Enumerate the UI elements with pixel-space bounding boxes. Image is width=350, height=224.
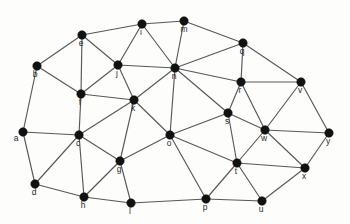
vertex-label-x: x — [302, 171, 307, 181]
graph-edge-v-y — [301, 82, 329, 133]
graph-edge-h-l — [84, 197, 131, 203]
vertex-label-y: y — [326, 136, 331, 146]
graph-edge-t-u — [237, 163, 262, 201]
graph-edge-s-t — [228, 113, 237, 163]
graph-edge-p-t — [206, 163, 237, 199]
vertex-label-n: n — [172, 71, 177, 81]
graph-edge-j-n — [118, 65, 175, 68]
graph-vertex-j — [114, 61, 122, 69]
graph-edge-o-p — [170, 135, 206, 199]
graph-edge-q-v — [243, 43, 301, 82]
vertex-label-f: f — [79, 97, 82, 107]
graph-edge-i-m — [142, 21, 184, 24]
graph-edge-n-s — [175, 68, 228, 113]
edge-layer — [23, 21, 329, 203]
vertex-label-u: u — [259, 204, 264, 214]
graph-edge-c-d — [35, 135, 79, 184]
vertex-label-i: i — [140, 27, 142, 37]
vertex-label-t: t — [235, 166, 238, 176]
graph-edge-p-u — [206, 199, 262, 201]
graph-edge-r-w — [241, 82, 265, 130]
vertex-label-w: w — [260, 133, 268, 143]
graph-edge-j-k — [118, 65, 134, 100]
graph-edge-t-x — [237, 163, 305, 168]
graph-edge-c-k — [79, 100, 134, 135]
graph-edge-i-j — [118, 24, 142, 65]
graph-edge-m-q — [184, 21, 243, 43]
label-layer: abcdefghijklmnopqrstuvwxy — [14, 24, 331, 216]
vertex-label-v: v — [298, 85, 303, 95]
graph-edge-d-h — [35, 184, 84, 197]
graph-edge-f-k — [81, 94, 134, 100]
vertex-label-l: l — [129, 206, 131, 216]
graph-edge-a-d — [23, 132, 35, 184]
vertex-label-p: p — [203, 202, 208, 212]
graph-edge-c-g — [79, 135, 120, 161]
vertex-label-o: o — [167, 138, 172, 148]
graph-vertex-i — [138, 20, 146, 28]
graph-edge-i-n — [142, 24, 175, 68]
vertex-label-r: r — [239, 85, 242, 95]
graph-canvas: abcdefghijklmnopqrstuvwxy — [0, 0, 350, 224]
graph-edge-v-w — [265, 82, 301, 130]
graph-edge-b-f — [37, 66, 81, 94]
graph-edge-f-j — [81, 65, 118, 94]
graph-edge-k-n — [134, 68, 175, 100]
vertex-label-b: b — [33, 69, 38, 79]
graph-edge-o-s — [170, 113, 228, 135]
graph-figure: abcdefghijklmnopqrstuvwxy — [0, 0, 350, 224]
graph-edge-l-p — [131, 199, 206, 203]
vertex-label-k: k — [131, 103, 136, 113]
vertex-label-h: h — [81, 200, 86, 210]
graph-edge-s-w — [228, 113, 265, 130]
vertex-label-s: s — [225, 116, 229, 126]
vertex-label-j: j — [115, 68, 118, 78]
graph-edge-g-h — [84, 161, 120, 197]
graph-edge-k-o — [134, 100, 170, 135]
graph-vertex-a — [19, 128, 27, 136]
graph-edge-w-y — [265, 130, 329, 133]
vertex-label-a: a — [14, 133, 19, 143]
graph-edge-n-q — [175, 43, 243, 68]
graph-edge-a-c — [23, 132, 79, 135]
graph-vertex-l — [127, 199, 135, 207]
vertex-label-d: d — [32, 187, 37, 197]
graph-edge-b-e — [37, 35, 82, 66]
vertex-label-q: q — [240, 46, 245, 56]
graph-edge-u-x — [262, 168, 305, 201]
graph-edge-w-x — [265, 130, 305, 168]
graph-edge-e-j — [82, 35, 118, 65]
graph-edge-o-t — [170, 135, 237, 163]
graph-edge-e-i — [82, 24, 142, 35]
vertex-label-g: g — [117, 164, 122, 174]
graph-edge-n-r — [175, 68, 241, 82]
graph-edge-g-l — [120, 161, 131, 203]
vertex-label-e: e — [79, 38, 84, 48]
vertex-label-m: m — [180, 24, 187, 34]
graph-edge-g-o — [120, 135, 170, 161]
